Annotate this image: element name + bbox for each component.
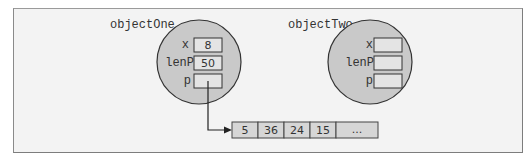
- field-box-x: [374, 38, 402, 52]
- field-value: 50: [201, 57, 215, 70]
- field-label: lenP: [345, 56, 374, 70]
- array-cell-value: 15: [316, 124, 330, 137]
- field-label: x: [182, 38, 189, 52]
- field-label: p: [366, 74, 373, 88]
- object-two: objectTwo x lenP p: [288, 18, 412, 104]
- field-value: 8: [205, 39, 212, 52]
- field-label: p: [184, 74, 191, 88]
- object-one: objectOne x 8 lenP 50 p: [110, 18, 241, 104]
- object-one-name: objectOne: [110, 18, 175, 32]
- field-label: lenP: [165, 56, 194, 70]
- field-box-p: [374, 74, 402, 88]
- array-cell-value: 5: [242, 124, 249, 137]
- array-cell-value: 36: [264, 124, 278, 137]
- field-label: x: [366, 38, 373, 52]
- array: 5 36 24 15 ...: [232, 122, 378, 138]
- memory-diagram: objectOne x 8 lenP 50 p objectTwo x lenP…: [0, 0, 531, 163]
- array-cell-value: ...: [352, 123, 363, 136]
- field-box-lenp: [374, 56, 402, 70]
- array-cell-value: 24: [290, 124, 304, 137]
- arrow-head-icon: [224, 127, 232, 134]
